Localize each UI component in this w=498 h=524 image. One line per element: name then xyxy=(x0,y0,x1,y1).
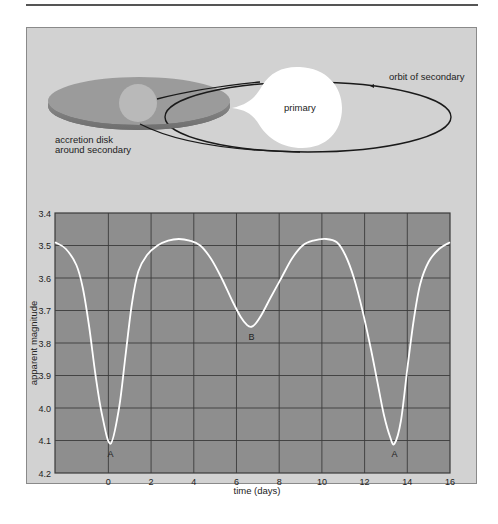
y-tick-label: 4.1 xyxy=(38,436,51,446)
x-tick-label: 14 xyxy=(402,477,412,487)
y-axis-ticks: 3.43.53.63.73.83.94.04.14.2 xyxy=(38,209,51,479)
light-curve-chart: 3.43.53.63.73.83.94.04.14.2 024681012141… xyxy=(28,209,455,497)
y-tick-label: 3.4 xyxy=(38,209,51,219)
label-disk-line2: around secondary xyxy=(55,144,131,155)
y-tick-label: 4.0 xyxy=(38,404,51,414)
label-primary: primary xyxy=(284,102,316,113)
y-tick-label: 3.9 xyxy=(38,371,51,381)
x-tick-label: 12 xyxy=(360,477,370,487)
y-tick-label: 3.8 xyxy=(38,339,51,349)
annotation-label: B xyxy=(248,332,254,342)
y-axis-label: apparent magnitude xyxy=(28,301,39,386)
y-tick-label: 4.2 xyxy=(38,469,51,479)
y-tick-label: 3.5 xyxy=(38,241,51,251)
annotation-label: A xyxy=(108,449,114,459)
y-tick-label: 3.6 xyxy=(38,274,51,284)
y-tick-label: 3.7 xyxy=(38,306,51,316)
x-axis-label: time (days) xyxy=(234,485,281,496)
label-orbit: orbit of secondary xyxy=(389,71,465,82)
x-tick-label: 4 xyxy=(191,477,196,487)
secondary-star xyxy=(119,84,157,122)
x-tick-label: 2 xyxy=(149,477,154,487)
x-tick-label: 0 xyxy=(106,477,111,487)
x-tick-label: 16 xyxy=(445,477,455,487)
figure-svg: orbit of secondary primary accretion dis… xyxy=(0,0,498,524)
binary-system-diagram: orbit of secondary primary accretion dis… xyxy=(48,67,465,155)
annotation-label: A xyxy=(391,449,397,459)
orbit-direction-arrow xyxy=(370,84,374,88)
x-tick-label: 10 xyxy=(317,477,327,487)
